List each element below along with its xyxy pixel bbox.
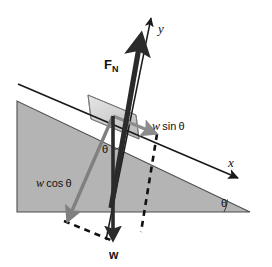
dashed-line-from-wcos: [64, 221, 113, 241]
theta-label-incline: θ: [221, 198, 227, 209]
w-cos-variable: w: [36, 176, 44, 190]
y-axis-label: y: [158, 22, 164, 35]
normal-force-symbol: F: [104, 57, 112, 72]
w-sin-variable: w: [152, 119, 160, 133]
w-sin-theta-symbol: θ: [178, 120, 184, 132]
diagram-canvas: [0, 0, 272, 267]
w-sin-function: sin: [162, 120, 176, 132]
w-cos-function: cos: [46, 177, 63, 189]
w-cos-theta-symbol: θ: [66, 177, 72, 189]
w-sin-theta-label: w sin θ: [152, 120, 185, 132]
theta-label-block: θ: [102, 144, 108, 155]
x-axis-label: x: [228, 156, 234, 169]
physics-diagram: y x FN w sin θ w cos θ θ θ w: [0, 0, 272, 267]
normal-force-label: FN: [104, 58, 118, 71]
w-cos-theta-label: w cos θ: [36, 177, 72, 189]
normal-force-subscript: N: [112, 64, 119, 74]
weight-label: w: [109, 249, 118, 261]
